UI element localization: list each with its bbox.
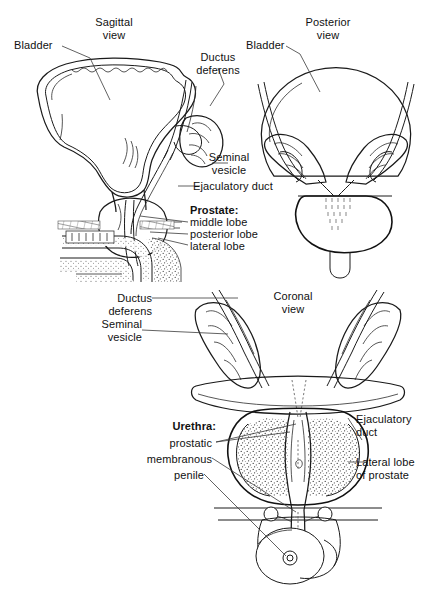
figure-linework — [0, 0, 426, 594]
posterior-view-label: Posteriorview — [288, 16, 368, 41]
urethra-membranous-label: membranous — [110, 453, 212, 466]
prostate-heading-label: Prostate: — [190, 204, 239, 217]
sagittal-ductus-deferens-label: Ductusdeferens — [185, 51, 251, 76]
urethra-penile-label: penile — [120, 469, 204, 482]
posterior-bladder-label: Bladder — [246, 39, 285, 52]
urethra-heading-label: Urethra: — [120, 420, 216, 433]
coronal-ejaculatory-duct-label: Ejaculatoryduct — [356, 413, 412, 438]
posterior-view-drawing — [258, 68, 414, 279]
prostate-middle-lobe-label: middle lobe — [190, 216, 247, 229]
anatomical-figure: Sagittalview Bladder Ductusdeferens Semi… — [0, 0, 426, 594]
coronal-view-label: Coronalview — [260, 290, 326, 315]
sagittal-seminal-vesicle-label: Seminalvesicle — [196, 151, 262, 176]
prostate-posterior-lobe-label: posterior lobe — [190, 228, 258, 241]
urethra-prostatic-label: prostatic — [120, 437, 212, 450]
coronal-ductus-deferens-label: Ductusdeferens — [86, 292, 152, 317]
sagittal-view-label: Sagittalview — [74, 16, 154, 41]
prostate-lateral-lobe-label: lateral lobe — [190, 240, 245, 253]
coronal-lateral-lobe-label: Lateral lobeof prostate — [356, 456, 415, 481]
sagittal-ejaculatory-duct-label: Ejaculatory duct — [193, 180, 273, 193]
coronal-seminal-vesicle-label: Seminalvesicle — [76, 318, 142, 343]
posterior-leader-lines — [286, 46, 320, 92]
sagittal-bladder-label: Bladder — [14, 39, 53, 52]
